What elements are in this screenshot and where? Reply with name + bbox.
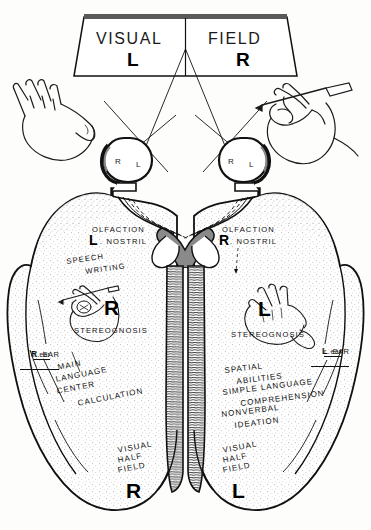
left-nostril-letter: L [89, 233, 98, 248]
right-stereognosis-label: STEREOGNOSIS [231, 331, 305, 339]
left-visual-half-field-letter: R [126, 480, 141, 503]
banner-letter-right: R [236, 50, 250, 71]
left-eyeball [102, 138, 152, 196]
right-eyeball [219, 138, 269, 196]
right-nostril-letter: R [219, 233, 230, 248]
left-eye-nasal-label: R [115, 158, 121, 167]
brain-stem [166, 266, 205, 492]
hemispheric-specialization-figure: VISUAL FIELD L R R L R L OLFACTION L . N… [0, 0, 371, 530]
right-visual-half-field-letter: L [232, 480, 245, 503]
left-eye-temporal-label: L [136, 161, 141, 170]
left-hemisphere-hand-letter: R [104, 297, 119, 320]
diagram-artwork [0, 0, 371, 530]
right-hemisphere-hand-letter: L [258, 298, 271, 321]
right-nostril-label: . NOSTRIL [230, 238, 277, 246]
left-hand-open-icon [13, 80, 94, 161]
right-eye-temporal-label: L [249, 161, 254, 170]
left-stereognosis-label: STEREOGNOSIS [74, 327, 148, 335]
left-olfaction-label: OLFACTION [92, 226, 145, 234]
banner-word-visual: VISUAL [96, 30, 163, 47]
left-ear-ipsilateral-label: l. ear [33, 352, 50, 360]
left-nostril-label: . NOSTRIL [100, 238, 147, 246]
right-hand-writing-icon [256, 83, 358, 164]
right-ear-ipsilateral-label: r. ear [324, 349, 342, 357]
banner-word-field: FIELD [208, 30, 261, 47]
right-eye-nasal-label: R [228, 158, 234, 167]
right-olfaction-label: OLFACTION [222, 226, 275, 234]
banner-letter-left: L [127, 50, 139, 71]
optic-chiasm [152, 228, 219, 268]
